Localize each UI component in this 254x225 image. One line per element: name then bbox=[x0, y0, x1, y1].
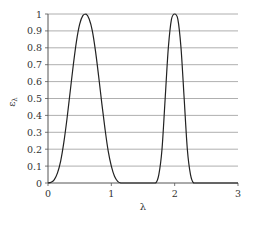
x-tick-label: 3 bbox=[235, 188, 241, 199]
y-tick-label: 0.7 bbox=[27, 59, 42, 70]
y-tick-labels: 00.10.20.30.40.50.60.70.80.91 bbox=[27, 9, 48, 189]
y-tick-label: 0.4 bbox=[27, 110, 42, 121]
y-tick-label: 0 bbox=[36, 178, 42, 189]
y-tick-label: 1 bbox=[36, 9, 42, 20]
emissivity-chart: 00.10.20.30.40.50.60.70.80.91 0123 λ ελ bbox=[0, 0, 254, 225]
y-tick-label: 0.3 bbox=[27, 127, 42, 138]
y-tick-label: 0.5 bbox=[27, 93, 42, 104]
gridlines bbox=[48, 14, 238, 166]
y-tick-label: 0.1 bbox=[27, 161, 42, 172]
y-axis-label: ελ bbox=[6, 97, 19, 107]
y-tick-label: 0.6 bbox=[27, 76, 42, 87]
x-tick-labels: 0123 bbox=[45, 183, 241, 199]
x-tick-label: 1 bbox=[108, 188, 114, 199]
x-axis-label: λ bbox=[140, 201, 147, 212]
y-tick-label: 0.2 bbox=[27, 144, 42, 155]
y-tick-label: 0.9 bbox=[27, 25, 42, 36]
svg-text:ελ: ελ bbox=[6, 97, 19, 107]
x-tick-label: 0 bbox=[45, 188, 51, 199]
y-tick-label: 0.8 bbox=[27, 42, 42, 53]
x-tick-label: 2 bbox=[172, 188, 178, 199]
